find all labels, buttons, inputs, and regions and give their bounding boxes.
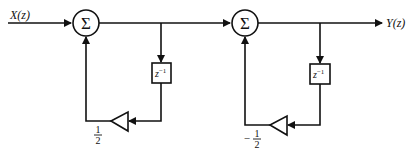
svg-text:2: 2 [96, 135, 101, 146]
feedback-2-line [245, 37, 270, 125]
feedback-1-line [86, 37, 111, 121]
gain-1-label: 1 2 [94, 124, 102, 146]
delay-block-2: z−1 [310, 64, 330, 84]
summer-1: Σ [73, 10, 99, 36]
output-label: Y(z) [386, 16, 405, 30]
block-diagram: X(z) Σ z−1 1 2 Σ Y(z) z−1 [0, 0, 416, 158]
delay-2-to-gain-line [288, 84, 320, 125]
svg-text:1: 1 [255, 128, 260, 139]
gain-2-label: − 1 2 [244, 128, 261, 150]
gain-2-triangle-icon [270, 116, 287, 135]
delay-block-1: z−1 [152, 63, 171, 83]
svg-text:1: 1 [96, 124, 101, 135]
svg-text:−: − [244, 132, 250, 144]
sigma-icon: Σ [240, 14, 250, 33]
delay-1-to-gain-line [129, 83, 161, 121]
input-label: X(z) [9, 8, 30, 22]
svg-text:2: 2 [255, 139, 260, 150]
summer-2: Σ [232, 10, 258, 36]
sigma-icon: Σ [81, 14, 91, 33]
gain-1-triangle-icon [111, 112, 128, 131]
